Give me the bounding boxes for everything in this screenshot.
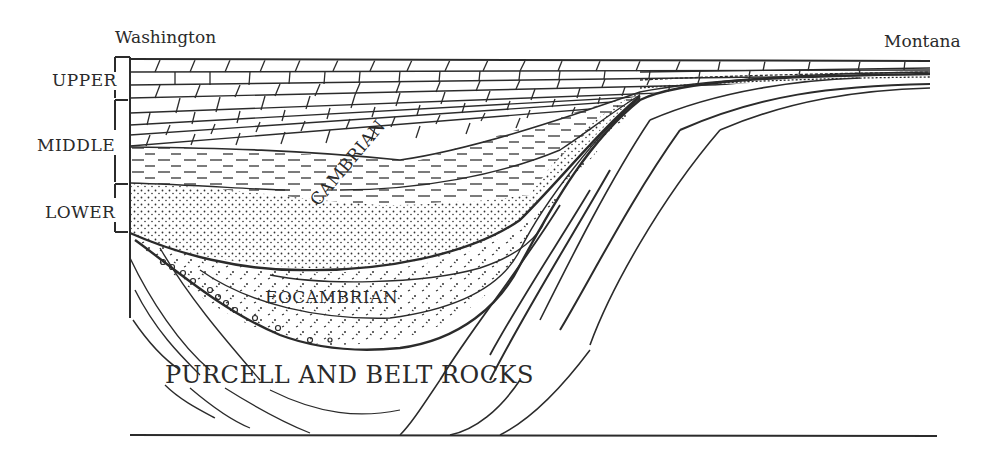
series-scale-bracket xyxy=(115,57,130,318)
location-label-montana: Montana xyxy=(884,31,961,51)
series-label-lower: LOWER xyxy=(45,202,116,222)
unit-label-purcell-belt: PURCELL AND BELT ROCKS xyxy=(165,361,534,389)
top-boundary xyxy=(130,59,930,61)
location-label-washington: Washington xyxy=(115,27,216,47)
series-label-upper: UPPER xyxy=(52,70,118,90)
bottom-baseline xyxy=(130,435,937,436)
geologic-cross-section: Washington Montana UPPER MIDDLE LOWER xyxy=(0,0,983,467)
unit-label-eocambrian: EOCAMBRIAN xyxy=(265,287,398,307)
series-label-middle: MIDDLE xyxy=(37,135,115,155)
